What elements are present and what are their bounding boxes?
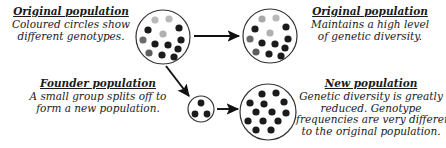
genotype-dot xyxy=(258,15,265,22)
genotype-dot xyxy=(174,45,181,52)
genotype-dot xyxy=(244,117,251,124)
genotype-dot xyxy=(139,36,146,43)
arrow-original-to-founder xyxy=(166,66,189,96)
genotype-dot xyxy=(164,41,171,48)
new-population-circle xyxy=(240,84,296,140)
founder-population-circle xyxy=(188,96,214,122)
genotype-dot xyxy=(198,100,205,107)
genotype-dot xyxy=(177,36,184,43)
genotype-dot xyxy=(252,126,259,133)
genotype-dot xyxy=(260,100,267,107)
genotype-dot xyxy=(175,24,182,31)
genotype-dot xyxy=(151,40,158,47)
genotype-dot xyxy=(258,90,265,97)
genotype-dot xyxy=(272,89,279,96)
genotype-dot xyxy=(192,111,199,118)
diagram-canvas: Original population Coloured circles sho… xyxy=(0,0,446,148)
genotype-dot xyxy=(252,48,259,55)
genotype-dot xyxy=(266,29,273,36)
genotype-dot xyxy=(284,35,291,42)
original-population-result-circle xyxy=(243,9,297,63)
genotype-dot xyxy=(159,30,166,37)
genotype-dot xyxy=(252,108,259,115)
genotype-dot xyxy=(145,49,152,56)
genotype-dot xyxy=(204,111,211,118)
genotype-dot xyxy=(151,16,158,23)
genotype-dot xyxy=(282,109,289,116)
genotype-dot xyxy=(246,35,253,42)
genotype-dot xyxy=(251,25,258,32)
genotype-dot xyxy=(246,99,253,106)
genotype-dot xyxy=(258,39,265,46)
original-population-circle xyxy=(136,10,190,64)
genotype-dot xyxy=(259,117,266,124)
genotype-dot xyxy=(282,23,289,30)
genotype-dot xyxy=(165,15,172,22)
genotype-dot xyxy=(267,126,274,133)
population-group xyxy=(136,9,297,140)
genotype-dot xyxy=(271,40,278,47)
genotype-dot xyxy=(265,50,272,57)
diagram-vector-layer xyxy=(0,0,446,148)
genotype-dot xyxy=(274,117,281,124)
genotype-dot xyxy=(268,108,275,115)
genotype-dot xyxy=(144,26,151,33)
genotype-dot xyxy=(170,53,177,60)
genotype-dot xyxy=(277,52,284,59)
genotype-dot xyxy=(158,51,165,58)
genotype-dot xyxy=(280,98,287,105)
genotype-dot xyxy=(281,44,288,51)
genotype-dot xyxy=(272,14,279,21)
